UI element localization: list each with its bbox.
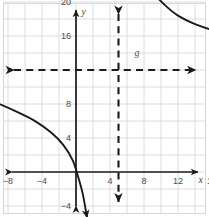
y-axis-label: y (81, 7, 87, 17)
graph-figure: −8−44812162024201684−4xyg (0, 0, 209, 217)
x-tick-label: −4 (37, 176, 47, 186)
curve-left-branch (0, 99, 87, 217)
y-tick-label: 4 (66, 133, 71, 143)
y-tick-label: −4 (61, 201, 71, 211)
y-tick-label: 20 (61, 0, 71, 7)
x-tick-label: −8 (3, 176, 13, 186)
x-tick-label: 16 (207, 176, 209, 186)
x-tick-label: 8 (141, 176, 146, 186)
x-axis-label: x (197, 175, 203, 185)
coordinate-plane: −8−44812162024201684−4xyg (0, 0, 209, 217)
asymptotes (14, 14, 196, 202)
y-tick-label: 16 (61, 31, 71, 41)
x-tick-label: 12 (173, 176, 183, 186)
curve-label-g: g (135, 47, 140, 58)
x-tick-label: 4 (107, 176, 112, 186)
y-tick-label: 8 (66, 99, 71, 109)
